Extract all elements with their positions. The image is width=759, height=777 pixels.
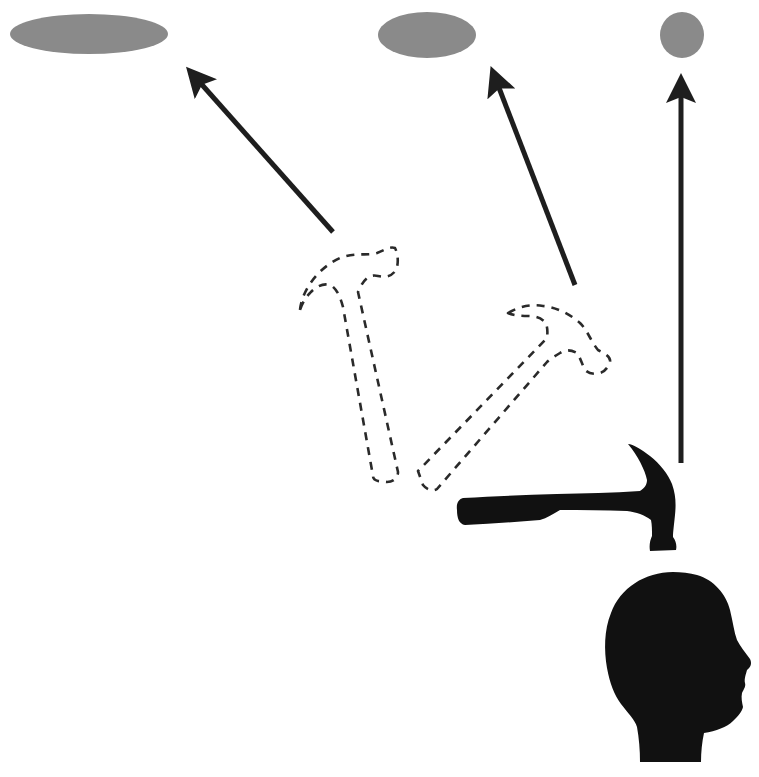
arrow-to-medium-target: [496, 80, 575, 285]
target-wide: [10, 14, 168, 54]
hammer-trajectory-diagram: [0, 0, 759, 777]
hammer-icon: [457, 444, 677, 551]
target-medium: [378, 12, 476, 58]
hammer-outline-icon: [418, 305, 610, 490]
arrow-to-wide-target: [196, 78, 333, 232]
human-head-icon: [605, 572, 751, 762]
hammer-outline-icon: [300, 247, 398, 482]
target-narrow: [660, 12, 704, 58]
